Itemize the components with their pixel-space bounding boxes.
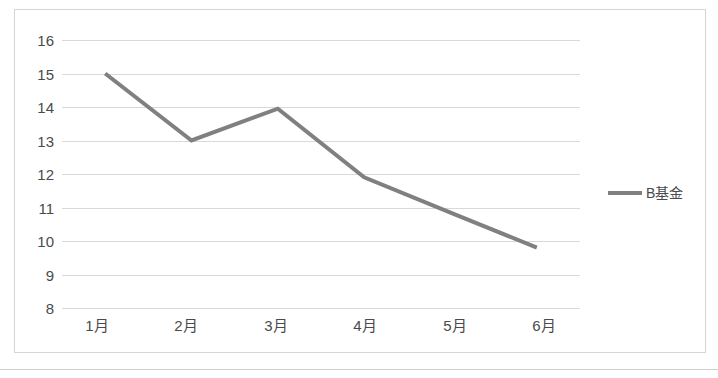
x-tick-label: 4月 [325, 318, 405, 333]
series-layer [62, 40, 580, 308]
x-tick-label: 5月 [415, 318, 495, 333]
line-chart: 16 15 14 13 12 11 10 9 8 1月 2月 3月 4月 5月 … [0, 0, 718, 378]
y-axis: 16 15 14 13 12 11 10 9 8 [14, 40, 54, 308]
x-tick-label: 3月 [236, 318, 316, 333]
plot-area [62, 40, 580, 308]
legend-label: B基金 [646, 186, 683, 200]
legend-line-swatch-icon [608, 191, 642, 195]
y-tick-label: 15 [20, 67, 54, 82]
legend: B基金 [608, 186, 683, 200]
y-tick-label: 14 [20, 100, 54, 115]
y-tick-label: 12 [20, 167, 54, 182]
y-tick-label: 8 [20, 301, 54, 316]
y-tick-label: 9 [20, 268, 54, 283]
x-tick-label: 2月 [146, 318, 226, 333]
x-axis: 1月 2月 3月 4月 5月 6月 [62, 318, 580, 350]
gridline [62, 308, 580, 309]
y-tick-label: 10 [20, 234, 54, 249]
y-tick-label: 11 [20, 201, 54, 216]
series-line-b-fund [105, 74, 537, 248]
x-tick-label: 1月 [57, 318, 137, 333]
y-tick-label: 16 [20, 33, 54, 48]
page-rule-divider [0, 369, 718, 370]
x-tick-label: 6月 [504, 318, 584, 333]
y-tick-label: 13 [20, 134, 54, 149]
